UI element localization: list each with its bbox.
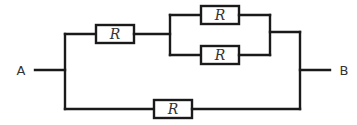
upper-branch: R	[65, 25, 170, 43]
terminal-b-label: B	[340, 63, 349, 78]
terminal-a-label: A	[17, 63, 26, 78]
left-node	[35, 34, 65, 109]
resistor-r2-label: R	[214, 7, 226, 23]
lower-branch: R	[65, 100, 300, 118]
parallel-group: R R	[170, 6, 300, 64]
right-node	[300, 32, 330, 109]
resistor-r4-label: R	[167, 101, 179, 117]
circuit-diagram: R R R R A B	[0, 0, 357, 125]
resistor-r1-label: R	[109, 26, 121, 42]
resistor-r3-label: R	[214, 47, 226, 63]
